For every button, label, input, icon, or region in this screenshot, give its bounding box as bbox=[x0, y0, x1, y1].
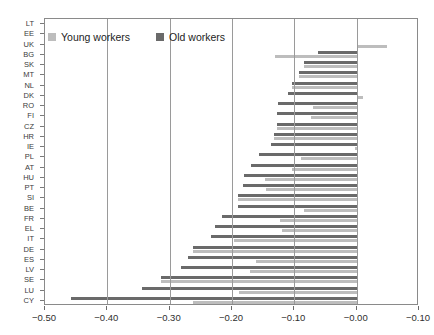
y-tick-label-nl: NL bbox=[24, 81, 34, 88]
bar-old-dk bbox=[288, 92, 357, 95]
y-tick-label-fr: FR bbox=[24, 214, 34, 221]
bar-row bbox=[45, 234, 417, 244]
gridline-1 bbox=[170, 19, 171, 304]
bar-old-de bbox=[193, 246, 356, 249]
bar-young-mt bbox=[299, 75, 356, 78]
bar-row bbox=[45, 152, 417, 162]
bar-old-pl bbox=[259, 153, 356, 156]
bar-row bbox=[45, 19, 417, 29]
y-tick-label-lu: LU bbox=[24, 286, 34, 293]
gridline-4 bbox=[357, 19, 358, 304]
x-tick-label-2: −0.30 bbox=[157, 312, 181, 323]
x-tick-mark bbox=[231, 306, 232, 310]
bar-old-lu bbox=[142, 287, 357, 290]
bar-chart: LTEEUKBGSKMTNLDKROFICZHRIEPLATHUPTSIBEFR… bbox=[0, 0, 434, 335]
bar-row bbox=[45, 132, 417, 142]
young-swatch-icon bbox=[48, 33, 56, 41]
bar-row bbox=[45, 101, 417, 111]
x-tick-label-5: −0.00 bbox=[344, 312, 368, 323]
bar-old-fi bbox=[277, 112, 357, 115]
bar-row bbox=[45, 163, 417, 173]
y-tick-label-si: SI bbox=[27, 194, 34, 201]
bar-old-lv bbox=[181, 266, 357, 269]
bar-row bbox=[45, 214, 417, 224]
bar-old-nl bbox=[292, 82, 356, 85]
y-tick-label-ie: IE bbox=[27, 143, 34, 150]
bar-row bbox=[45, 286, 417, 296]
bar-row bbox=[45, 111, 417, 121]
x-tick-mark bbox=[44, 306, 45, 310]
x-tick-mark bbox=[169, 306, 170, 310]
x-tick-mark bbox=[293, 306, 294, 310]
x-tick-label-0: −0.50 bbox=[32, 312, 56, 323]
chart-legend: Young workers Old workers bbox=[48, 31, 225, 43]
bar-row bbox=[45, 245, 417, 255]
bar-old-si bbox=[238, 194, 356, 197]
x-tick-label-4: −0.10 bbox=[281, 312, 305, 323]
y-tick-label-ee: EE bbox=[24, 30, 34, 37]
bar-row bbox=[45, 224, 417, 234]
bar-old-cz bbox=[277, 123, 357, 126]
bar-old-bg bbox=[318, 51, 357, 54]
bar-young-pt bbox=[266, 188, 357, 191]
bar-young-cy bbox=[193, 301, 356, 304]
bar-young-de bbox=[193, 250, 356, 253]
bar-old-el bbox=[215, 225, 356, 228]
y-tick-label-se: SE bbox=[24, 276, 34, 283]
bar-old-hu bbox=[244, 174, 357, 177]
y-tick-label-mt: MT bbox=[23, 71, 34, 78]
bar-young-cz bbox=[277, 127, 357, 130]
bar-young-lv bbox=[250, 270, 357, 273]
y-tick-label-cz: CZ bbox=[24, 122, 34, 129]
y-tick-label-hr: HR bbox=[23, 132, 34, 139]
bar-old-pt bbox=[243, 184, 356, 187]
bar-young-se bbox=[161, 280, 357, 283]
bar-old-mt bbox=[299, 71, 356, 74]
gridline-0 bbox=[107, 19, 108, 304]
bar-old-es bbox=[188, 256, 357, 259]
bar-row bbox=[45, 204, 417, 214]
y-tick-label-uk: UK bbox=[24, 40, 34, 47]
bar-old-sk bbox=[304, 61, 357, 64]
y-axis: LTEEUKBGSKMTNLDKROFICZHRIEPLATHUPTSIBEFR… bbox=[0, 18, 44, 305]
bar-row bbox=[45, 50, 417, 60]
legend-label-young: Young workers bbox=[61, 31, 130, 43]
bar-rows bbox=[45, 19, 417, 304]
y-tick-label-pl: PL bbox=[25, 153, 34, 160]
bar-row bbox=[45, 296, 417, 306]
bar-old-it bbox=[211, 235, 356, 238]
y-tick-label-de: DE bbox=[24, 245, 34, 252]
gridline-2 bbox=[232, 19, 233, 304]
old-swatch-icon bbox=[156, 33, 164, 41]
bar-row bbox=[45, 142, 417, 152]
bar-row bbox=[45, 173, 417, 183]
bar-young-si bbox=[238, 198, 356, 201]
y-tick-label-it: IT bbox=[27, 235, 34, 242]
y-tick-label-lt: LT bbox=[26, 20, 34, 27]
y-tick-label-bg: BG bbox=[23, 50, 34, 57]
x-tick-mark bbox=[106, 306, 107, 310]
bar-old-be bbox=[238, 205, 356, 208]
bar-row bbox=[45, 91, 417, 101]
bar-young-at bbox=[292, 168, 356, 171]
bar-row bbox=[45, 193, 417, 203]
y-tick-label-pt: PT bbox=[24, 184, 34, 191]
y-tick-label-el: EL bbox=[25, 225, 34, 232]
bar-row bbox=[45, 255, 417, 265]
bar-young-hu bbox=[265, 178, 357, 181]
bar-old-se bbox=[161, 276, 357, 279]
gridline-3 bbox=[294, 19, 295, 304]
bar-young-be bbox=[304, 209, 357, 212]
bar-row bbox=[45, 122, 417, 132]
y-tick-label-fi: FI bbox=[27, 112, 34, 119]
y-tick-label-hu: HU bbox=[23, 173, 34, 180]
x-tick-label-6: −0.10 bbox=[406, 312, 430, 323]
x-tick-mark bbox=[418, 306, 419, 310]
bar-old-at bbox=[251, 164, 357, 167]
y-tick-label-be: BE bbox=[24, 204, 34, 211]
y-tick-label-sk: SK bbox=[24, 61, 34, 68]
plot-area bbox=[44, 18, 418, 305]
bar-young-hr bbox=[274, 137, 357, 140]
bar-young-it bbox=[234, 239, 356, 242]
bar-young-es bbox=[256, 260, 356, 263]
